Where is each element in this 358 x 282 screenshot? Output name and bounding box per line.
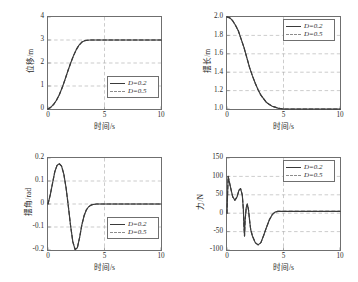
legend-row: D=0.2 xyxy=(110,79,155,87)
subplot-pendulum-length: 摆长/m 时间/s 1.01.21.41.61.82.0 0510 D=0.2 … xyxy=(179,0,358,141)
legend-label: D=0.5 xyxy=(128,229,147,236)
legend-label: D=0.5 xyxy=(128,88,147,95)
legend-line-dashed-icon xyxy=(110,229,125,236)
legend-force: D=0.2 D=0.5 xyxy=(283,160,335,182)
subplot-force: 力/N 时间/s -100-50050100150 0510 D=0.2 D=0… xyxy=(179,141,358,282)
x-tick-label: 10 xyxy=(330,112,350,119)
y-tick-label: 0.1 xyxy=(5,177,44,184)
y-tick-label: 1.8 xyxy=(184,32,223,39)
legend-line-dashed-icon xyxy=(110,88,125,95)
y-tick-label: -0.1 xyxy=(5,223,44,230)
legend-row: D=0.2 xyxy=(110,220,155,228)
legend-displacement: D=0.2 D=0.5 xyxy=(107,76,159,98)
x-axis-label-pendulum-length: 时间/s xyxy=(226,123,341,131)
legend-row: D=0.5 xyxy=(110,87,155,95)
legend-line-dashed-icon xyxy=(286,31,301,38)
figure-canvas: 位移/m 时间/s 01234 0510 D=0.2 D=0.5 摆长/m 时间… xyxy=(0,0,358,282)
subplot-swing-angle: 摆角/rad 时间/s -0.2-0.100.10.2 0510 D=0.2 D… xyxy=(0,141,179,282)
legend-line-dashed-icon xyxy=(286,172,301,179)
x-tick-label: 0 xyxy=(38,112,58,119)
x-tick-label: 0 xyxy=(38,253,58,260)
x-tick-label: 5 xyxy=(95,253,115,260)
y-tick-label: 2 xyxy=(5,59,44,66)
y-tick-label: 3 xyxy=(5,36,44,43)
y-tick-label: 2.0 xyxy=(184,13,223,20)
legend-label: D=0.2 xyxy=(128,80,147,87)
x-tick-label: 10 xyxy=(151,253,171,260)
x-tick-label: 10 xyxy=(151,112,171,119)
legend-label: D=0.2 xyxy=(304,23,323,30)
legend-row: D=0.5 xyxy=(110,228,155,236)
legend-row: D=0.5 xyxy=(286,171,331,179)
x-axis-label-swing-angle: 时间/s xyxy=(47,264,162,272)
legend-label: D=0.5 xyxy=(304,172,323,179)
x-tick-label: 5 xyxy=(95,112,115,119)
legend-line-solid-icon xyxy=(286,164,301,171)
legend-swing-angle: D=0.2 D=0.5 xyxy=(107,217,159,239)
x-axis-label-force: 时间/s xyxy=(226,264,341,272)
legend-label: D=0.2 xyxy=(304,164,323,171)
subplot-displacement: 位移/m 时间/s 01234 0510 D=0.2 D=0.5 xyxy=(0,0,179,141)
y-tick-label: 100 xyxy=(184,173,223,180)
legend-row: D=0.2 xyxy=(286,163,331,171)
y-tick-label: 50 xyxy=(184,191,223,198)
legend-line-solid-icon xyxy=(110,80,125,87)
legend-label: D=0.2 xyxy=(128,221,147,228)
y-tick-label: 0 xyxy=(184,210,223,217)
x-tick-label: 0 xyxy=(217,112,237,119)
y-tick-label: 4 xyxy=(5,13,44,20)
y-tick-label: 0 xyxy=(5,200,44,207)
legend-row: D=0.2 xyxy=(286,22,331,30)
x-tick-label: 10 xyxy=(330,253,350,260)
y-tick-label: 1.2 xyxy=(184,87,223,94)
y-tick-label: 1.4 xyxy=(184,69,223,76)
legend-label: D=0.5 xyxy=(304,31,323,38)
x-axis-label-displacement: 时间/s xyxy=(47,123,162,131)
legend-line-solid-icon xyxy=(110,221,125,228)
y-tick-label: 1 xyxy=(5,82,44,89)
y-tick-label: 1.6 xyxy=(184,50,223,57)
legend-pendulum-length: D=0.2 D=0.5 xyxy=(283,19,335,41)
y-tick-label: -50 xyxy=(184,228,223,235)
legend-row: D=0.5 xyxy=(286,30,331,38)
x-tick-label: 5 xyxy=(274,253,294,260)
y-tick-label: 0.2 xyxy=(5,154,44,161)
y-tick-label: 150 xyxy=(184,154,223,161)
legend-line-solid-icon xyxy=(286,23,301,30)
x-tick-label: 5 xyxy=(274,112,294,119)
x-tick-label: 0 xyxy=(217,253,237,260)
